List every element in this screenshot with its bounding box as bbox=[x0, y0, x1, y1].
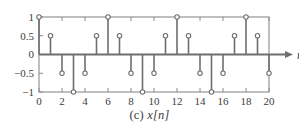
stem-marker bbox=[106, 15, 110, 19]
stem-marker bbox=[140, 90, 144, 94]
y-tick-label: 0.5 bbox=[20, 30, 34, 42]
x-tick-label: 2 bbox=[59, 95, 65, 107]
x-tick-label: 8 bbox=[128, 95, 134, 107]
stem-marker bbox=[209, 90, 213, 94]
caption-variable: x[n] bbox=[147, 108, 169, 122]
axis-label-n: n bbox=[297, 48, 299, 62]
stem-marker bbox=[48, 34, 52, 38]
figure-caption: (c) x[n] bbox=[0, 108, 299, 123]
stem-marker bbox=[129, 71, 133, 75]
stem-marker bbox=[152, 71, 156, 75]
x-tick-label: 0 bbox=[36, 95, 42, 107]
y-tick-label: −0.5 bbox=[14, 67, 34, 79]
stem-marker bbox=[60, 71, 64, 75]
stem-marker bbox=[244, 15, 248, 19]
stem-marker bbox=[163, 34, 167, 38]
caption-label: (c) bbox=[129, 108, 143, 122]
x-tick-label: 12 bbox=[172, 95, 183, 107]
stem-marker bbox=[198, 71, 202, 75]
stem-marker bbox=[255, 34, 259, 38]
x-tick-label: 14 bbox=[195, 95, 207, 107]
x-tick-label: 6 bbox=[105, 95, 111, 107]
stem-marker bbox=[232, 34, 236, 38]
x-tick-label: 16 bbox=[218, 95, 230, 107]
stem-marker bbox=[71, 90, 75, 94]
y-tick-label: −1 bbox=[22, 86, 34, 98]
stem-marker bbox=[186, 34, 190, 38]
stem-marker bbox=[221, 71, 225, 75]
x-tick-label: 20 bbox=[264, 95, 276, 107]
stem-marker bbox=[267, 71, 271, 75]
x-tick-label: 18 bbox=[241, 95, 253, 107]
stem-marker bbox=[175, 15, 179, 19]
x-tick-label: 10 bbox=[149, 95, 161, 107]
stem-marker bbox=[83, 71, 87, 75]
stem-marker bbox=[117, 34, 121, 38]
stem-marker bbox=[37, 15, 41, 19]
y-tick-label: 1 bbox=[29, 11, 35, 23]
y-tick-label: 0 bbox=[29, 48, 35, 60]
stem-marker bbox=[94, 34, 98, 38]
figure-panel: 10.50−0.5−102468101214161820n (c) x[n] bbox=[0, 0, 299, 130]
x-tick-label: 4 bbox=[82, 95, 88, 107]
axis-arrow-icon bbox=[285, 51, 293, 58]
